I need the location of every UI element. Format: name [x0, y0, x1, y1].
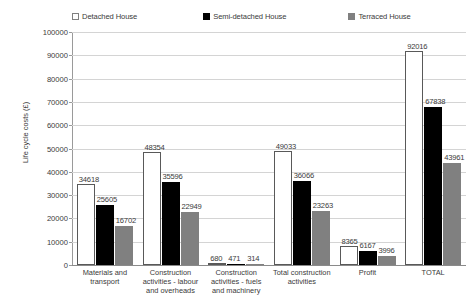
bar-value-label: 35596	[163, 172, 183, 181]
y-tick-mark	[69, 195, 72, 196]
bar-terraced-house[interactable]: 22949	[181, 212, 199, 265]
bar-group: 920166783843961	[405, 32, 461, 265]
y-tick-label: 40000	[47, 167, 68, 176]
y-tick-mark	[69, 102, 72, 103]
bar-terraced-house[interactable]: 23263	[312, 211, 330, 265]
bar-group: 680471314	[208, 32, 264, 265]
bar-semi-detached-house[interactable]: 6167	[359, 251, 377, 265]
x-axis-category-label: Profit	[335, 268, 401, 277]
x-axis-category-label: Materials andtransport	[72, 268, 138, 286]
bar-value-label: 3996	[379, 246, 395, 255]
legend-label-terraced-house: Terraced House	[358, 12, 410, 21]
bar-chart: Detached House Semi-detached House Terra…	[0, 0, 473, 308]
x-axis-category-label: Constructionactivities - labourand overh…	[138, 268, 204, 296]
legend-label-semi-detached-house: Semi-detached House	[213, 12, 286, 21]
bar-value-label: 6167	[360, 241, 376, 250]
bar-value-label: 67838	[425, 97, 445, 106]
x-axis-category-label: Constructionactivities - fuelsand machin…	[203, 268, 269, 296]
plot-area: 0100002000030000400005000060000700008000…	[72, 32, 466, 266]
gray-square-swatch-icon	[348, 13, 355, 20]
bar-group: 490333606623263	[274, 32, 330, 265]
bar-group: 836561673996	[340, 32, 396, 265]
y-tick-mark	[69, 79, 72, 80]
y-tick-label: 30000	[47, 191, 68, 200]
chart-legend: Detached House Semi-detached House Terra…	[70, 9, 410, 23]
bar-terraced-house[interactable]: 43961	[443, 163, 461, 265]
y-tick-mark	[69, 172, 72, 173]
bar-value-label: 36066	[294, 171, 314, 180]
y-tick-label: 20000	[47, 214, 68, 223]
y-tick-mark	[69, 32, 72, 33]
y-tick-label: 90000	[47, 51, 68, 60]
bar-detached-house[interactable]: 49033	[274, 151, 292, 265]
bar-group: 483543559622949	[143, 32, 199, 265]
y-tick-label: 100000	[43, 28, 68, 37]
bar-detached-house[interactable]: 48354	[143, 152, 161, 265]
x-axis-category-label: Total constructionactivities	[269, 268, 335, 286]
bar-value-label: 471	[228, 254, 240, 263]
x-axis-category-label: TOTAL	[400, 268, 466, 277]
y-axis-title: Life cycle costs (£)	[21, 78, 30, 188]
y-tick-label: 10000	[47, 237, 68, 246]
y-tick-label: 60000	[47, 121, 68, 130]
y-tick-mark	[69, 265, 72, 266]
y-tick-label: 0	[64, 261, 68, 270]
y-tick-mark	[69, 125, 72, 126]
bar-group: 346182560516702	[77, 32, 133, 265]
bar-detached-house[interactable]: 92016	[405, 51, 423, 265]
bar-value-label: 16702	[116, 216, 136, 225]
x-axis-line	[72, 265, 466, 266]
legend-entry-detached-house: Detached House	[72, 12, 137, 21]
y-tick-label: 70000	[47, 97, 68, 106]
legend-label-detached-house: Detached House	[82, 12, 137, 21]
x-axis-labels: Materials andtransportConstructionactivi…	[72, 268, 466, 308]
bar-value-label: 43961	[444, 153, 464, 162]
bar-semi-detached-house[interactable]: 67838	[424, 107, 442, 265]
bar-semi-detached-house[interactable]: 25605	[96, 205, 114, 265]
y-tick-mark	[69, 55, 72, 56]
y-tick-mark	[69, 242, 72, 243]
white-square-swatch-icon	[72, 13, 79, 20]
bar-value-label: 22949	[182, 202, 202, 211]
bar-value-label: 314	[247, 254, 259, 263]
bar-detached-house[interactable]: 8365	[340, 246, 358, 265]
legend-entry-semi-detached-house: Semi-detached House	[203, 12, 286, 21]
y-tick-label: 80000	[47, 74, 68, 83]
bar-value-label: 34618	[79, 175, 99, 184]
legend-entry-terraced-house: Terraced House	[348, 12, 410, 21]
bar-terraced-house[interactable]: 3996	[378, 256, 396, 265]
bar-semi-detached-house[interactable]: 35596	[162, 182, 180, 265]
bar-detached-house[interactable]: 34618	[77, 184, 95, 265]
y-tick-mark	[69, 218, 72, 219]
bar-terraced-house[interactable]: 314	[246, 264, 264, 265]
bar-value-label: 49033	[276, 142, 296, 151]
bar-value-label: 8365	[342, 237, 358, 246]
bar-value-label: 92016	[407, 42, 427, 51]
bar-semi-detached-house[interactable]: 36066	[293, 181, 311, 265]
bar-semi-detached-house[interactable]: 471	[227, 264, 245, 265]
bar-value-label: 680	[210, 254, 222, 263]
bar-value-label: 23263	[313, 201, 333, 210]
bar-value-label: 48354	[145, 143, 165, 152]
bar-detached-house[interactable]: 680	[208, 263, 226, 265]
y-tick-label: 50000	[47, 144, 68, 153]
black-square-swatch-icon	[203, 13, 210, 20]
bar-value-label: 25605	[97, 195, 117, 204]
y-tick-mark	[69, 149, 72, 150]
bar-terraced-house[interactable]: 16702	[115, 226, 133, 265]
